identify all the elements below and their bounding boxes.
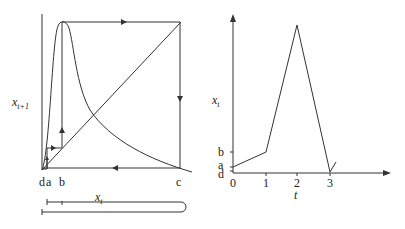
ytick-d: d [218,167,224,181]
tick-d: d [39,175,45,189]
tick-c: c [176,175,181,189]
right-y-label: xt [211,93,220,109]
xtick-1: 1 [263,176,269,190]
left-x-label: xt [94,190,103,206]
ytick-b: b [218,145,224,159]
diagonal-line [42,22,181,170]
x-axis-arrow-icon [383,170,391,176]
arrow-right-icon [121,19,127,25]
time-series-line [233,25,336,172]
arrow-right-small-icon [51,145,56,151]
map-curve [42,22,192,172]
arrow-up-icon [59,127,65,133]
time-series-plot [230,20,385,176]
diagram-canvas: xt+1 d a b c xt xt b a d 0 1 2 3 t [0,0,405,229]
arrow-up-small-icon [45,156,49,160]
right-x-label: t [294,188,298,202]
xtick-0: 0 [230,176,236,190]
y-axis-arrow-icon [230,14,236,22]
cobweb-plot [42,14,192,172]
arrow-down-icon [177,96,183,102]
xtick-3: 3 [327,176,333,190]
tick-a: a [46,175,52,189]
tick-b: b [59,175,65,189]
arrow-left-icon [112,165,118,171]
left-y-label: xt+1 [11,95,29,111]
range-bar [42,199,186,215]
